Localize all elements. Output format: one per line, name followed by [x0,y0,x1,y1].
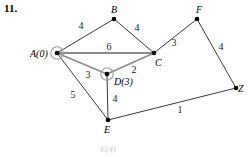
node-label-e: E [103,124,110,135]
edge-weight-f-z: 4 [219,41,224,52]
cutoff-label-layer: E(4) [99,144,116,154]
graph-node-b [112,17,117,22]
graph-node-d [105,72,110,77]
edge-weight-a-c: 6 [107,41,112,52]
graph-node-f [195,17,200,22]
graph-node-e [106,118,111,123]
edge-weight-b-c: 4 [135,22,140,33]
graph-edge-d-c [107,53,154,74]
node-label-c: C [155,57,162,68]
node-label-z: Z [238,83,244,94]
edge-weight-a-e: 5 [71,89,76,100]
node-label-f: F [195,4,203,15]
cutoff-label: E(4) [99,144,116,154]
node-label-b: B [111,4,117,15]
edge-weight-d-c: 2 [132,64,137,75]
graph-node-c [152,51,157,56]
edge-weight-c-f: 3 [172,37,177,48]
node-layer [51,17,239,123]
node-label-d: D(3) [113,76,134,88]
edge-layer [57,19,236,120]
graph-edge-e-z [108,88,236,120]
edge-weight-e-z: 1 [178,104,183,115]
edge-weight-a-d: 3 [86,69,91,80]
graph-edge-d-e [107,74,108,120]
graph-node-a [55,51,60,56]
edge-weight-d-e: 4 [113,93,118,104]
graph-diagram: 4463245341 A(0)BCD(3)EFZ E(4) [0,0,248,157]
node-label-a: A(0) [29,48,48,60]
problem-figure: 11. 4463245341 A(0)BCD(3)EFZ E(4) [0,0,248,157]
graph-edge-a-b [57,19,114,53]
graph-edge-f-z [197,19,236,88]
edge-weight-a-b: 4 [79,20,84,31]
